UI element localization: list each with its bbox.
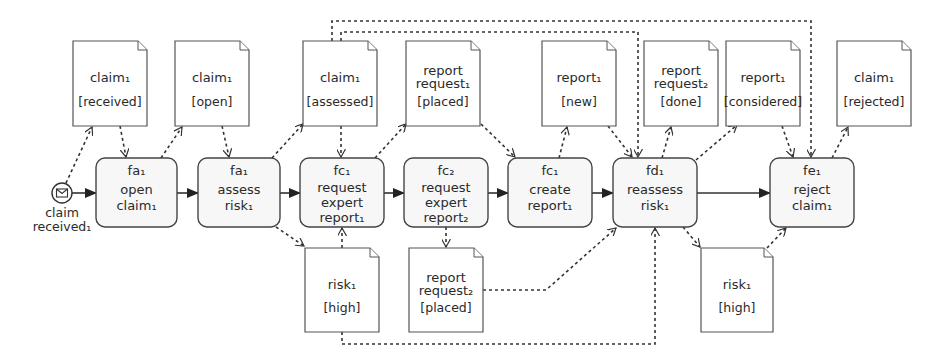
association-d7-to-t7 <box>782 126 793 157</box>
task-role: fc₁ <box>542 163 559 178</box>
data-object-state: [new] <box>561 94 597 109</box>
diagram-svg: claim₁[received]claim₁[open]claim₁[asses… <box>0 0 947 363</box>
task-label: report₂ <box>424 210 469 225</box>
task-label: claim₁ <box>792 198 832 213</box>
association-t6-to-d7 <box>696 125 737 160</box>
data-object-d9[interactable]: risk₁[high] <box>305 248 379 332</box>
data-object-state: [assessed] <box>307 94 374 109</box>
event-label: received₁ <box>33 219 92 234</box>
data-object-name: claim₁ <box>90 70 130 85</box>
data-object-d2[interactable]: claim₁[open] <box>175 41 249 126</box>
process-diagram: claim₁[received]claim₁[open]claim₁[asses… <box>0 0 947 363</box>
association-t2-to-d3 <box>272 124 303 158</box>
event-label: claim <box>45 205 79 220</box>
task-t4[interactable]: fc₂requestexpertreport₂ <box>404 158 488 227</box>
task-t3[interactable]: fc₁requestexpertreport₁ <box>300 158 384 227</box>
task-role: fa₁ <box>230 163 248 178</box>
data-object-name: risk₁ <box>723 277 751 292</box>
task-t7[interactable]: fe₁rejectclaim₁ <box>770 158 854 227</box>
folded-corner-icon <box>474 248 483 257</box>
data-object-state: [high] <box>718 300 755 315</box>
task-label: reject <box>794 182 831 197</box>
task-role: fc₂ <box>438 163 455 178</box>
start-event-claim-received[interactable]: claimreceived₁ <box>33 183 92 234</box>
data-object-state: [high] <box>323 300 360 315</box>
association-t6-to-d6 <box>662 127 671 158</box>
data-object-state: [considered] <box>724 94 802 109</box>
task-t5[interactable]: fc₁createreport₁ <box>508 158 592 227</box>
data-object-d8[interactable]: claim₁[rejected] <box>837 41 911 126</box>
task-label: assess <box>217 182 260 197</box>
task-t1[interactable]: fa₁openclaim₁ <box>96 158 177 227</box>
task-label: claim₁ <box>116 198 156 213</box>
association-d1-to-t1 <box>120 126 126 157</box>
event-layer: claimreceived₁ <box>33 183 92 234</box>
data-object-name: request₁ <box>416 76 471 91</box>
association-t7-to-d8 <box>832 127 848 158</box>
data-object-d3[interactable]: claim₁[assessed] <box>303 41 377 126</box>
task-t2[interactable]: fa₁assessrisk₁ <box>198 158 280 227</box>
task-label: report₁ <box>320 210 365 225</box>
data-object-d6[interactable]: reportrequest₂[done] <box>644 41 718 126</box>
data-object-name: claim₁ <box>192 70 232 85</box>
task-label: expert <box>321 195 363 210</box>
task-label: open <box>120 182 152 197</box>
association-d4-to-t5 <box>481 124 515 157</box>
task-label: create <box>529 182 570 197</box>
data-object-state: [placed] <box>420 300 471 315</box>
data-object-name: request₂ <box>419 283 474 298</box>
folded-corner-icon <box>370 248 379 257</box>
data-object-d5[interactable]: report₁[new] <box>542 41 616 126</box>
association-d9-to-t6 <box>342 228 655 344</box>
association-d10-to-t6 <box>483 228 616 290</box>
data-object-d4[interactable]: reportrequest₁[placed] <box>406 41 480 126</box>
task-role: fc₁ <box>334 163 351 178</box>
task-label: risk₁ <box>225 198 253 213</box>
data-object-name: request₂ <box>654 76 709 91</box>
data-object-state: [placed] <box>417 94 468 109</box>
task-label: request <box>421 180 470 195</box>
task-t6[interactable]: fd₁reassessrisk₁ <box>613 158 697 227</box>
association-ev-to-d1 <box>66 127 92 183</box>
association-d5-to-t6 <box>608 126 632 157</box>
data-object-name: claim₁ <box>854 70 894 85</box>
association-t3-to-d4 <box>375 124 406 158</box>
association-d2-to-t2 <box>222 126 229 157</box>
task-role: fd₁ <box>646 163 664 178</box>
data-object-d1[interactable]: claim₁[received] <box>73 41 147 126</box>
task-label: expert <box>425 195 467 210</box>
data-object-d7[interactable]: report₁[considered] <box>724 41 802 126</box>
task-label: risk₁ <box>641 198 669 213</box>
association-t2-to-d9 <box>276 227 304 246</box>
task-label: reassess <box>627 182 683 197</box>
task-label: report₁ <box>528 198 573 213</box>
data-object-name: risk₁ <box>328 277 356 292</box>
association-t5-to-d5 <box>559 127 567 158</box>
association-t6-to-d11 <box>683 227 700 247</box>
data-object-name: report₁ <box>557 70 602 85</box>
data-object-state: [open] <box>192 94 233 109</box>
data-object-name: claim₁ <box>320 70 360 85</box>
data-object-state: [received] <box>78 94 141 109</box>
task-role: fe₁ <box>803 163 821 178</box>
data-object-name: report₁ <box>741 70 786 85</box>
association-t1-to-d2 <box>161 127 182 158</box>
association-d11-to-t7 <box>767 228 786 248</box>
task-label: request <box>317 180 366 195</box>
data-object-d10[interactable]: reportrequest₂[placed] <box>409 248 483 332</box>
data-object-state: [done] <box>661 94 702 109</box>
data-object-state: [rejected] <box>844 94 905 109</box>
data-object-d11[interactable]: risk₁[high] <box>701 248 773 332</box>
envelope-icon <box>57 189 68 197</box>
task-role: fa₁ <box>128 163 146 178</box>
